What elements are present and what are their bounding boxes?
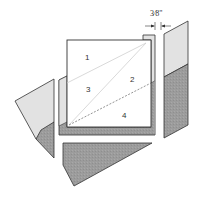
section-label-2: 2 bbox=[130, 75, 135, 84]
section-label-4: 1 bbox=[85, 53, 90, 62]
section-label-3: 3 bbox=[86, 85, 91, 94]
bottom-fabric-triangle bbox=[63, 143, 152, 186]
right-fabric-panel bbox=[164, 21, 188, 138]
seam-allowance-dimension: 3⁄8" bbox=[145, 9, 171, 30]
diagram-canvas: 1 2 3 4 3⁄8" bbox=[0, 0, 198, 202]
left-fabric-flap bbox=[15, 79, 54, 158]
section-label-1: 4 bbox=[122, 111, 127, 120]
foundation-paper-square bbox=[67, 40, 151, 127]
dimension-label: 3⁄8" bbox=[150, 9, 163, 18]
